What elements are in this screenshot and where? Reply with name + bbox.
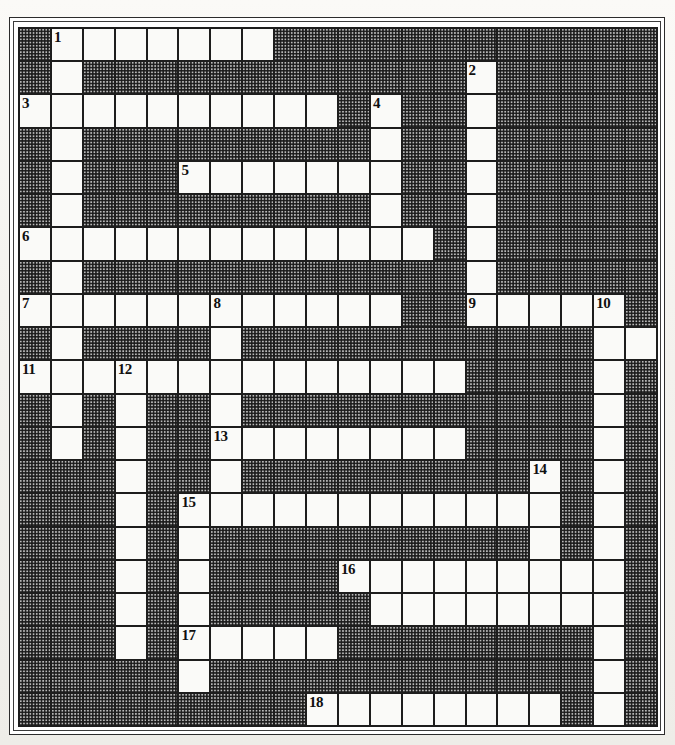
grid-cell-open[interactable] (211, 228, 243, 261)
grid-cell-open[interactable] (179, 295, 211, 328)
grid-cell-open[interactable] (594, 461, 626, 494)
grid-cell-open[interactable] (179, 661, 211, 694)
grid-cell-open[interactable] (211, 627, 243, 660)
grid-cell-open[interactable] (116, 461, 148, 494)
grid-cell-open[interactable] (275, 428, 307, 461)
grid-cell-open[interactable] (562, 295, 594, 328)
grid-cell-open[interactable] (467, 694, 499, 727)
grid-cell-open[interactable] (307, 361, 339, 394)
grid-cell-open[interactable]: 10 (594, 295, 626, 328)
grid-cell-open[interactable] (371, 694, 403, 727)
grid-cell-open[interactable] (435, 428, 467, 461)
grid-cell-open[interactable] (52, 162, 84, 195)
grid-cell-open[interactable] (403, 561, 435, 594)
grid-cell-open[interactable] (243, 29, 275, 62)
grid-cell-open[interactable]: 6 (20, 228, 52, 261)
grid-cell-open[interactable] (594, 328, 626, 361)
grid-cell-open[interactable] (435, 594, 467, 627)
grid-cell-open[interactable] (116, 594, 148, 627)
grid-cell-open[interactable] (339, 162, 371, 195)
grid-cell-open[interactable] (179, 594, 211, 627)
grid-cell-open[interactable] (52, 428, 84, 461)
grid-cell-open[interactable] (594, 361, 626, 394)
grid-cell-open[interactable] (52, 129, 84, 162)
grid-cell-open[interactable] (371, 228, 403, 261)
grid-cell-open[interactable] (594, 561, 626, 594)
grid-cell-open[interactable] (116, 395, 148, 428)
grid-cell-open[interactable] (307, 162, 339, 195)
grid-cell-open[interactable] (116, 228, 148, 261)
grid-cell-open[interactable] (467, 594, 499, 627)
grid-cell-open[interactable] (307, 627, 339, 660)
grid-cell-open[interactable]: 7 (20, 295, 52, 328)
grid-cell-open[interactable]: 5 (179, 162, 211, 195)
grid-cell-open[interactable]: 4 (371, 95, 403, 128)
grid-cell-open[interactable] (211, 95, 243, 128)
grid-cell-open[interactable] (148, 95, 180, 128)
grid-cell-open[interactable] (148, 361, 180, 394)
grid-cell-open[interactable] (339, 361, 371, 394)
grid-cell-open[interactable] (52, 62, 84, 95)
grid-cell-open[interactable] (211, 395, 243, 428)
grid-cell-open[interactable]: 16 (339, 561, 371, 594)
grid-cell-open[interactable] (116, 95, 148, 128)
grid-cell-open[interactable] (243, 428, 275, 461)
grid-cell-open[interactable] (403, 228, 435, 261)
grid-cell-open[interactable] (435, 561, 467, 594)
grid-cell-open[interactable] (498, 494, 530, 527)
grid-cell-open[interactable] (84, 95, 116, 128)
grid-cell-open[interactable] (148, 228, 180, 261)
grid-cell-open[interactable] (243, 494, 275, 527)
grid-cell-open[interactable] (339, 295, 371, 328)
grid-cell-open[interactable] (498, 594, 530, 627)
grid-cell-open[interactable]: 18 (307, 694, 339, 727)
grid-cell-open[interactable] (498, 694, 530, 727)
grid-cell-open[interactable]: 17 (179, 627, 211, 660)
grid-cell-open[interactable] (371, 361, 403, 394)
grid-cell-open[interactable] (275, 627, 307, 660)
grid-cell-open[interactable] (594, 627, 626, 660)
grid-cell-open[interactable] (211, 162, 243, 195)
grid-cell-open[interactable] (467, 195, 499, 228)
grid-cell-open[interactable] (243, 361, 275, 394)
grid-cell-open[interactable] (116, 295, 148, 328)
grid-cell-open[interactable] (148, 295, 180, 328)
grid-cell-open[interactable] (116, 428, 148, 461)
grid-cell-open[interactable] (339, 228, 371, 261)
grid-cell-open[interactable] (52, 328, 84, 361)
grid-cell-open[interactable] (52, 195, 84, 228)
grid-cell-open[interactable] (467, 262, 499, 295)
grid-cell-open[interactable] (467, 494, 499, 527)
grid-cell-open[interactable] (52, 228, 84, 261)
grid-cell-open[interactable] (179, 95, 211, 128)
grid-cell-open[interactable] (211, 29, 243, 62)
grid-cell-open[interactable] (307, 428, 339, 461)
grid-cell-open[interactable] (211, 494, 243, 527)
grid-cell-open[interactable] (403, 594, 435, 627)
grid-cell-open[interactable] (275, 95, 307, 128)
grid-cell-open[interactable] (562, 561, 594, 594)
grid-cell-open[interactable] (530, 528, 562, 561)
grid-cell-open[interactable] (148, 29, 180, 62)
grid-cell-open[interactable] (403, 428, 435, 461)
grid-cell-open[interactable] (211, 361, 243, 394)
grid-cell-open[interactable]: 14 (530, 461, 562, 494)
grid-cell-open[interactable] (530, 561, 562, 594)
grid-cell-open[interactable] (371, 129, 403, 162)
grid-cell-open[interactable] (371, 494, 403, 527)
grid-cell-open[interactable] (275, 162, 307, 195)
grid-cell-open[interactable] (371, 195, 403, 228)
grid-cell-open[interactable] (467, 561, 499, 594)
grid-cell-open[interactable]: 3 (20, 95, 52, 128)
grid-cell-open[interactable] (84, 295, 116, 328)
grid-cell-open[interactable] (84, 29, 116, 62)
grid-cell-open[interactable] (211, 328, 243, 361)
grid-cell-open[interactable] (275, 361, 307, 394)
grid-cell-open[interactable] (116, 29, 148, 62)
grid-cell-open[interactable]: 13 (211, 428, 243, 461)
grid-cell-open[interactable] (371, 561, 403, 594)
grid-cell-open[interactable] (275, 228, 307, 261)
grid-cell-open[interactable] (179, 361, 211, 394)
grid-cell-open[interactable] (371, 295, 403, 328)
grid-cell-open[interactable] (435, 361, 467, 394)
